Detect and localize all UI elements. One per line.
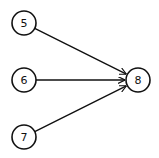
node-label: 5 [21,17,28,30]
node-label: 8 [135,74,142,87]
node-5: 5 [12,11,36,35]
node-label: 6 [21,74,28,87]
node-7: 7 [12,125,36,149]
edges [35,28,127,131]
graph-diagram: 5678 [0,0,159,158]
node-6: 6 [12,68,36,92]
edge-5-to-8 [35,28,127,74]
node-8: 8 [126,68,150,92]
edge-7-to-8 [35,86,127,132]
node-label: 7 [21,131,28,144]
